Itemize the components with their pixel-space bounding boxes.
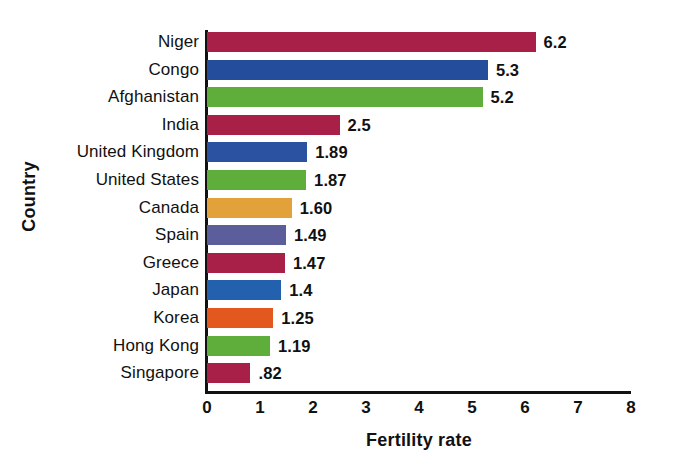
bar-value-label: 1.89	[315, 143, 348, 162]
bar-value-label: 1.25	[281, 309, 314, 328]
bar-value-label: 2.5	[348, 115, 371, 134]
bar-row: United Kingdom1.89	[207, 142, 631, 162]
bar-value-label: 1.60	[300, 198, 333, 217]
bar	[207, 308, 273, 328]
bar-row: Singapore.82	[207, 363, 631, 383]
category-label: Hong Kong	[113, 336, 199, 356]
category-label: Congo	[148, 60, 199, 80]
bar-value-label: .82	[258, 364, 281, 383]
category-label: India	[162, 115, 199, 135]
bar-value-label: 1.4	[289, 281, 312, 300]
category-label: Niger	[158, 32, 199, 52]
category-label: Afghanistan	[108, 87, 199, 107]
category-label: Spain	[155, 225, 199, 245]
bar-row: India2.5	[207, 115, 631, 135]
x-tick-label: 3	[361, 398, 370, 418]
bar-row: Hong Kong1.19	[207, 336, 631, 356]
category-label: Singapore	[121, 363, 199, 383]
x-tick-label: 6	[520, 398, 529, 418]
category-label: Canada	[139, 198, 199, 218]
bar	[207, 280, 281, 300]
bar-row: Afghanistan5.2	[207, 87, 631, 107]
category-label: United States	[96, 170, 199, 190]
bar	[207, 115, 340, 135]
bar-row: Korea1.25	[207, 308, 631, 328]
bar	[207, 142, 307, 162]
bar-value-label: 1.49	[294, 226, 327, 245]
x-axis-line	[205, 391, 631, 394]
bar	[207, 170, 306, 190]
bar-value-label: 1.19	[278, 336, 311, 355]
bar	[207, 32, 536, 52]
category-label: Japan	[152, 280, 199, 300]
bar	[207, 87, 483, 107]
fertility-rate-bar-chart: Country Niger6.2Congo5.3Afghanistan5.2In…	[0, 0, 683, 462]
bar-value-label: 5.3	[496, 60, 519, 79]
bar	[207, 253, 285, 273]
bar-row: Spain1.49	[207, 225, 631, 245]
bar-row: Niger6.2	[207, 32, 631, 52]
category-label: United Kingdom	[77, 142, 199, 162]
x-tick-label: 5	[467, 398, 476, 418]
bar-row: Greece1.47	[207, 253, 631, 273]
x-tick-label: 7	[573, 398, 582, 418]
bar	[207, 225, 286, 245]
plot-area: Niger6.2Congo5.3Afghanistan5.2India2.5Un…	[207, 30, 631, 392]
x-tick-label: 2	[308, 398, 317, 418]
bar	[207, 60, 488, 80]
x-tick-label: 1	[255, 398, 264, 418]
bar-value-label: 1.87	[314, 171, 347, 190]
bar	[207, 336, 270, 356]
bar-row: Canada1.60	[207, 198, 631, 218]
x-tick-label: 4	[414, 398, 423, 418]
category-label: Korea	[153, 308, 199, 328]
bar	[207, 363, 250, 383]
bar-value-label: 5.2	[491, 88, 514, 107]
bar	[207, 198, 292, 218]
bar-row: Japan1.4	[207, 280, 631, 300]
x-tick-label: 0	[202, 398, 211, 418]
bar-value-label: 1.47	[293, 253, 326, 272]
x-tick-label: 8	[626, 398, 635, 418]
y-axis-title: Country	[19, 142, 40, 252]
bar-row: Congo5.3	[207, 60, 631, 80]
bar-value-label: 6.2	[544, 33, 567, 52]
bar-row: United States1.87	[207, 170, 631, 190]
x-axis-title: Fertility rate	[207, 430, 631, 451]
category-label: Greece	[143, 253, 199, 273]
